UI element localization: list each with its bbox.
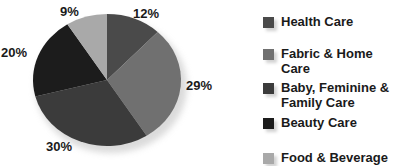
- pie-chart: 12% 29% 30% 20% 9%: [0, 0, 260, 166]
- legend-item-fabric-home-care: Fabric & Home Care: [263, 46, 373, 76]
- legend-swatch-baby-feminine-family-care: [263, 83, 274, 94]
- legend-label: Beauty Care: [281, 115, 357, 130]
- legend-label-line2: Family Care: [281, 95, 389, 110]
- pie-chart-graphic: [0, 0, 260, 166]
- legend-swatch-health-care: [263, 17, 274, 28]
- legend-label: Food & Beverage: [281, 150, 388, 165]
- legend-label-line1: Health Care: [281, 14, 353, 29]
- legend-label-line1: Beauty Care: [281, 115, 357, 130]
- slice-label-beauty-care: 20%: [1, 45, 27, 60]
- legend-label-line1: Food & Beverage: [281, 150, 388, 165]
- slice-label-food-beverage: 9%: [60, 4, 79, 19]
- legend-label-line1: Baby, Feminine &: [281, 80, 389, 95]
- slice-label-health-care: 12%: [133, 6, 159, 21]
- legend-label: Baby, Feminine & Family Care: [281, 80, 389, 110]
- slice-label-fabric-home-care: 29%: [186, 78, 212, 93]
- legend-label: Health Care: [281, 14, 353, 29]
- legend-item-health-care: Health Care: [263, 14, 353, 29]
- pie-slices: [33, 14, 181, 146]
- legend-item-baby-feminine-family-care: Baby, Feminine & Family Care: [263, 80, 389, 110]
- legend-swatch-food-beverage: [263, 153, 274, 164]
- legend-label-line2: Care: [281, 61, 373, 76]
- legend-swatch-beauty-care: [263, 118, 274, 129]
- slice-label-baby-family-care: 30%: [46, 139, 72, 154]
- legend-label: Fabric & Home Care: [281, 46, 373, 76]
- legend-label-line1: Fabric & Home: [281, 46, 373, 61]
- legend-item-beauty-care: Beauty Care: [263, 115, 357, 130]
- legend-swatch-fabric-home-care: [263, 49, 274, 60]
- legend-item-food-beverage: Food & Beverage: [263, 150, 388, 165]
